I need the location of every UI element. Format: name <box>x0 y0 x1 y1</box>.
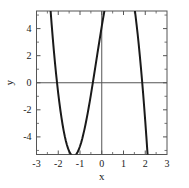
chart-figure: -3-2-10123-4-2024xy <box>0 0 189 188</box>
y-tick-label: 4 <box>27 23 32 34</box>
x-tick-label: 2 <box>143 158 148 169</box>
plot-canvas: -3-2-10123-4-2024xy <box>0 0 189 188</box>
y-axis-label: y <box>3 80 15 86</box>
x-tick-label: 3 <box>165 158 170 169</box>
y-tick-label: 0 <box>27 77 32 88</box>
x-tick-label: -1 <box>76 158 84 169</box>
y-tick-label: -4 <box>23 131 31 142</box>
x-axis-label: x <box>99 170 105 182</box>
x-tick-label: -2 <box>54 158 62 169</box>
y-tick-label: 2 <box>27 50 32 61</box>
x-tick-label: 1 <box>121 158 126 169</box>
y-tick-label: -2 <box>23 104 31 115</box>
x-tick-label: 0 <box>99 158 104 169</box>
x-tick-label: -3 <box>32 158 40 169</box>
